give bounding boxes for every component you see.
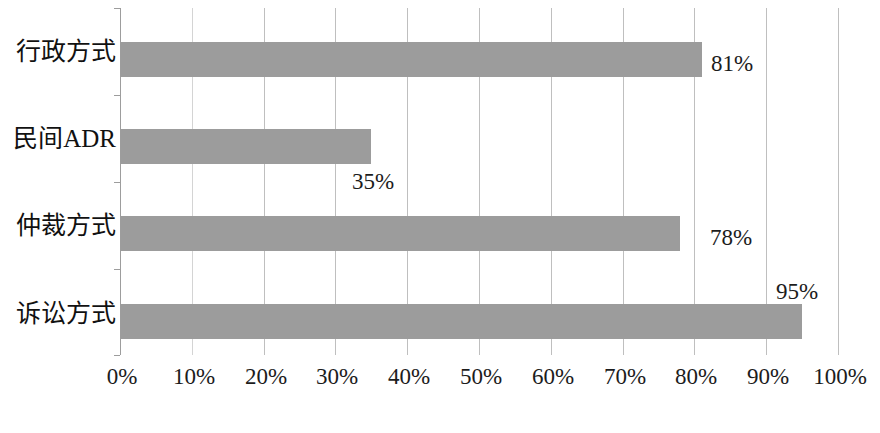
x-tick-label-70: 70% bbox=[604, 365, 646, 388]
x-tick-label-100: 100% bbox=[813, 365, 867, 388]
x-tick-label-80: 80% bbox=[675, 365, 717, 388]
y-axis-line bbox=[120, 8, 121, 355]
x-tick-label-20: 20% bbox=[245, 365, 287, 388]
bar-chart: 81% 35% 78% 95% 行政方式 民间ADR 仲裁方式 诉讼方式 0% … bbox=[0, 0, 880, 433]
gridline-90 bbox=[766, 8, 767, 355]
value-label-arbitration: 78% bbox=[710, 226, 752, 249]
bar-litigation bbox=[120, 304, 802, 339]
x-axis-tick-labels: 0% 10% 20% 30% 40% 50% 60% 70% 80% 90% 1… bbox=[0, 365, 880, 405]
x-tick-label-50: 50% bbox=[460, 365, 502, 388]
x-tick-label-40: 40% bbox=[388, 365, 430, 388]
x-tick-label-0: 0% bbox=[107, 365, 138, 388]
gridline-100 bbox=[838, 8, 839, 355]
x-tick-label-60: 60% bbox=[532, 365, 574, 388]
category-label-litigation: 诉讼方式 bbox=[6, 301, 120, 326]
x-tick-label-10: 10% bbox=[173, 365, 215, 388]
value-label-private-adr: 35% bbox=[352, 170, 394, 193]
value-label-administrative: 81% bbox=[711, 52, 753, 75]
x-tick-label-90: 90% bbox=[747, 365, 789, 388]
x-tick-label-30: 30% bbox=[316, 365, 358, 388]
bar-administrative bbox=[120, 42, 702, 77]
value-label-litigation: 95% bbox=[776, 280, 818, 303]
category-label-administrative: 行政方式 bbox=[6, 39, 120, 64]
bar-arbitration bbox=[120, 216, 680, 251]
category-label-arbitration: 仲裁方式 bbox=[6, 213, 120, 238]
bar-private-adr bbox=[120, 129, 371, 164]
category-label-private-adr: 民间ADR bbox=[6, 126, 120, 151]
